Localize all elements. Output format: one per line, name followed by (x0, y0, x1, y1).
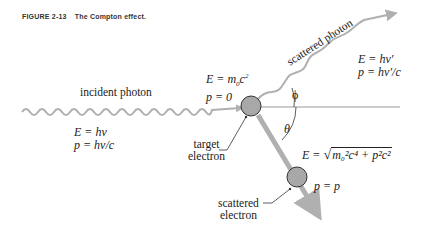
compton-diagram: scattered photon (0, 0, 432, 235)
target-electron-equations: E = m0c2 p = 0 (206, 70, 248, 104)
scattered-electron-momentum: p = p (314, 180, 340, 193)
theta-label: θ (284, 123, 290, 136)
scattered-photon-label: scattered photon (285, 16, 356, 68)
target-momentum: p = 0 (206, 91, 248, 104)
scattered-electron-leader (263, 189, 290, 203)
incident-momentum: p = hν/c (74, 139, 114, 152)
scattered-electron-energy: E = √m₀²c⁴ + p²c² (302, 148, 392, 162)
scattered-photon-equations: E = hν′ p = hν′/c (358, 53, 401, 79)
scattered-electron (287, 167, 307, 187)
incident-photon-equations: E = hν p = hν/c (74, 126, 114, 152)
scattered-electron-label: scattered electron (218, 197, 259, 221)
incident-photon-wave (22, 108, 240, 115)
target-energy: E = m0c2 (206, 70, 248, 91)
incident-photon-label: incident photon (80, 86, 152, 98)
phi-label: ϕ (292, 89, 298, 102)
target-electron-label: target electron (188, 138, 225, 162)
scattered-photon-momentum: p = hν′/c (358, 66, 401, 79)
